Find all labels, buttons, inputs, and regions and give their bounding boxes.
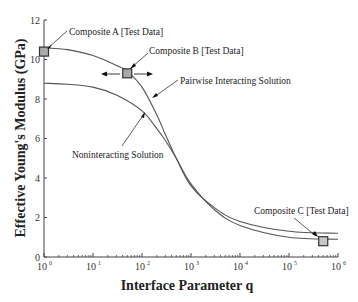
svg-text:0: 0 bbox=[49, 260, 52, 266]
x-tick-label: 105 bbox=[282, 260, 297, 272]
arrow-right-icon bbox=[147, 72, 153, 77]
x-tick-label: 102 bbox=[135, 260, 150, 272]
label-composite-a: Composite A [Test Data] bbox=[69, 27, 163, 37]
label-composite-c: Composite C [Test Data] bbox=[254, 206, 349, 216]
y-tick-label: 4 bbox=[35, 173, 40, 184]
svg-text:10: 10 bbox=[86, 261, 96, 272]
y-tick-label: 10 bbox=[30, 54, 40, 65]
svg-text:3: 3 bbox=[196, 260, 199, 266]
arrowhead-icon bbox=[312, 231, 318, 237]
svg-text:2: 2 bbox=[147, 260, 150, 266]
y-tick-label: 2 bbox=[35, 212, 40, 223]
label-composite-b: Composite B [Test Data] bbox=[149, 46, 244, 56]
svg-text:10: 10 bbox=[37, 261, 47, 272]
x-tick-label: 106 bbox=[331, 260, 346, 272]
svg-text:10: 10 bbox=[184, 261, 194, 272]
x-tick-label: 100 bbox=[37, 260, 52, 272]
y-axis-title: Effective Young's Modulus (GPa) bbox=[13, 38, 29, 237]
label-noninteracting: Noninteracting Solution bbox=[72, 150, 164, 160]
x-axis-title: Interface Parameter q bbox=[121, 278, 254, 293]
test-data-marker bbox=[319, 237, 328, 246]
test-data-marker bbox=[40, 47, 49, 56]
arrowhead-icon bbox=[141, 112, 145, 118]
annotations: Composite A [Test Data] Composite B [Tes… bbox=[47, 27, 349, 237]
svg-text:1: 1 bbox=[98, 260, 101, 266]
arrow-noninteracting bbox=[122, 114, 144, 146]
svg-text:4: 4 bbox=[245, 260, 248, 266]
svg-text:10: 10 bbox=[331, 261, 341, 272]
arrow-pairwise bbox=[154, 80, 178, 97]
svg-text:10: 10 bbox=[135, 261, 145, 272]
x-tick-label: 103 bbox=[184, 260, 199, 272]
svg-text:5: 5 bbox=[294, 260, 297, 266]
label-pairwise: Pairwise Interacting Solution bbox=[180, 76, 291, 86]
arrowhead-icon bbox=[152, 93, 158, 98]
x-tick-label: 104 bbox=[233, 260, 248, 272]
arrow-left-icon bbox=[101, 72, 107, 77]
y-tick-label: 8 bbox=[35, 94, 40, 105]
y-tick-label: 6 bbox=[35, 133, 40, 144]
chart: 024681012100101102103104105106 Composite… bbox=[0, 0, 358, 302]
svg-text:6: 6 bbox=[343, 260, 346, 266]
test-data-marker bbox=[123, 69, 132, 78]
svg-text:10: 10 bbox=[233, 261, 243, 272]
y-tick-label: 12 bbox=[30, 15, 40, 26]
svg-text:10: 10 bbox=[282, 261, 292, 272]
x-tick-label: 101 bbox=[86, 260, 101, 272]
